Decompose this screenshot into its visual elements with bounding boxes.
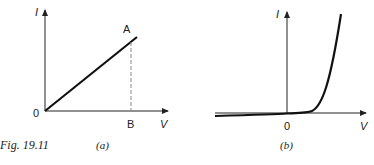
x-axis-label-a: V xyxy=(160,118,169,130)
x-axis-label-b: V xyxy=(360,120,369,132)
origin-label-b: 0 xyxy=(284,120,290,132)
y-axis-label-a: I xyxy=(35,6,38,18)
linear-curve xyxy=(45,37,137,111)
diode-curve xyxy=(215,14,341,116)
panel-a: I V 0 A B xyxy=(33,6,169,130)
origin-label-a: 0 xyxy=(33,107,39,119)
sublabel-b: (b) xyxy=(280,139,293,152)
point-a-label: A xyxy=(123,23,131,35)
figure-canvas: I V 0 A B I V 0 Fig. 19.11 (a) (b) xyxy=(0,0,374,165)
y-axis-label-b: I xyxy=(276,8,279,20)
panel-b: I V 0 xyxy=(215,8,369,132)
figure-caption: Fig. 19.11 xyxy=(0,138,49,152)
sublabel-a: (a) xyxy=(96,139,109,152)
point-b-label: B xyxy=(127,118,134,130)
